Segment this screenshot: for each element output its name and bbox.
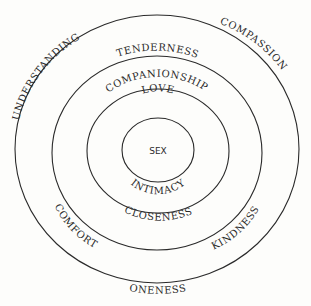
label-tenderness: TENDERNESS — [115, 42, 200, 61]
label-intimacy: INTIMACY — [129, 177, 187, 196]
label-sex: SEX — [149, 146, 167, 156]
label-oneness: ONENESS — [129, 282, 187, 296]
label-closeness: CLOSENESS — [123, 204, 194, 223]
label-kindness: KINDNESS — [210, 204, 261, 252]
label-compassion: COMPASSION — [219, 15, 290, 72]
concentric-diagram: SEX LOVE INTIMACY COMPANIONSHIP CLOSENES… — [0, 0, 311, 306]
label-understanding: UNDERSTANDING — [10, 31, 81, 121]
label-comfort: COMFORT — [53, 202, 100, 250]
